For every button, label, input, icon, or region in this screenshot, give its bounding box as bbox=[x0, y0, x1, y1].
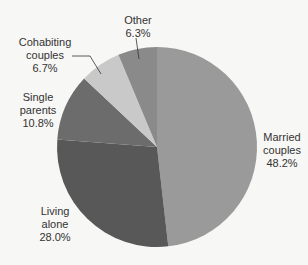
label-line: couples bbox=[256, 144, 308, 157]
label-single-parents: Single parents 10.8% bbox=[14, 91, 62, 130]
label-line: Single bbox=[14, 91, 62, 104]
label-cohabiting-couples: Cohabiting couples 6.7% bbox=[14, 36, 76, 75]
label-pct: 10.8% bbox=[14, 117, 62, 130]
label-line: Married bbox=[256, 131, 308, 144]
label-pct: 6.7% bbox=[14, 62, 76, 75]
label-line: Other bbox=[118, 14, 158, 27]
label-other: Other 6.3% bbox=[118, 14, 158, 40]
label-line: parents bbox=[14, 104, 62, 117]
label-line: Living bbox=[30, 205, 80, 218]
label-pct: 6.3% bbox=[118, 27, 158, 40]
label-line: Cohabiting bbox=[14, 36, 76, 49]
label-line: couples bbox=[14, 49, 76, 62]
label-pct: 28.0% bbox=[30, 231, 80, 244]
label-line: alone bbox=[30, 218, 80, 231]
label-living-alone: Living alone 28.0% bbox=[30, 205, 80, 244]
label-married-couples: Married couples 48.2% bbox=[256, 131, 308, 170]
slice-married-couples bbox=[157, 47, 257, 246]
label-pct: 48.2% bbox=[256, 157, 308, 170]
